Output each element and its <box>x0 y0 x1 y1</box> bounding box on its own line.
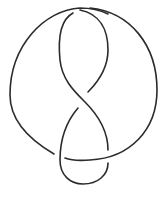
inner-right-strand <box>80 10 108 92</box>
knot-diagram: Knot diagram drawn as a single closed st… <box>0 0 165 200</box>
lower-loop <box>60 108 108 184</box>
knot-drawing <box>0 0 165 200</box>
outer-left-arc <box>10 8 108 154</box>
inner-left-strand <box>59 13 108 150</box>
outer-right-arc <box>65 8 157 160</box>
